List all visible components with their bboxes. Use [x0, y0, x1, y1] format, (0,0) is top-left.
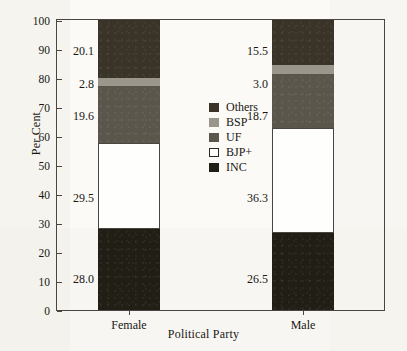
segment-female-inc[interactable]	[98, 229, 160, 310]
segment-male-bjp[interactable]	[272, 128, 334, 233]
y-tick-mark-30	[57, 224, 62, 225]
legend-item-uf[interactable]: UF	[209, 130, 258, 145]
segment-male-uf[interactable]	[272, 74, 334, 128]
legend-item-bjp[interactable]: BJP+	[209, 145, 258, 160]
value-label-male-bsp: 3.0	[224, 78, 268, 90]
bar-male[interactable]	[272, 20, 334, 310]
value-label-female-inc: 28.0	[50, 273, 94, 285]
segment-male-bsp[interactable]	[272, 65, 334, 74]
legend-label-others: Others	[226, 100, 258, 115]
value-label-male-others: 15.5	[224, 45, 268, 57]
chart-legend: Others BSP UF BJP+ INC	[209, 100, 258, 175]
y-tick-mark-50	[57, 166, 62, 167]
legend-item-bsp[interactable]: BSP	[209, 115, 258, 130]
y-tick-mark-100	[57, 21, 62, 22]
y-tick-mark-60	[57, 137, 62, 138]
value-label-male-bjp: 36.3	[224, 192, 268, 204]
segment-male-inc[interactable]	[272, 233, 334, 310]
segment-female-uf[interactable]	[98, 86, 160, 143]
plot-area: 100 90 80 70 60 50 40 30 20 10 0 Female …	[56, 19, 385, 311]
legend-swatch-uf-icon	[209, 133, 219, 142]
y-tick-mark-20	[57, 253, 62, 254]
y-tick-mark-0	[57, 311, 62, 312]
legend-label-bsp: BSP	[226, 115, 247, 130]
value-label-female-uf: 19.6	[50, 110, 94, 122]
legend-label-inc: INC	[226, 160, 247, 175]
legend-swatch-bjp-icon	[209, 148, 219, 157]
segment-female-bjp[interactable]	[98, 143, 160, 229]
legend-label-bjp: BJP+	[226, 145, 252, 160]
y-tick-mark-70	[57, 108, 62, 109]
segment-female-bsp[interactable]	[98, 78, 160, 86]
x-tick-label-female: Female	[69, 318, 189, 333]
stacked-bar-chart-figure: Per Cent Political Party 100 90 80 70 60…	[0, 0, 407, 351]
bar-female[interactable]	[98, 20, 160, 310]
legend-swatch-others-icon	[209, 103, 219, 112]
value-label-female-bsp: 2.8	[50, 78, 94, 90]
value-label-female-others: 20.1	[50, 45, 94, 57]
legend-swatch-bsp-icon	[209, 118, 219, 127]
x-tick-mark-female	[129, 310, 130, 315]
value-label-female-bjp: 29.5	[50, 192, 94, 204]
legend-item-others[interactable]: Others	[209, 100, 258, 115]
legend-item-inc[interactable]: INC	[209, 160, 258, 175]
legend-swatch-inc-icon	[209, 163, 219, 172]
x-tick-label-male: Male	[243, 318, 363, 333]
segment-female-others[interactable]	[98, 20, 160, 78]
segment-male-others[interactable]	[272, 20, 334, 65]
legend-label-uf: UF	[226, 130, 241, 145]
x-tick-mark-male	[303, 310, 304, 315]
value-label-male-inc: 26.5	[224, 273, 268, 285]
